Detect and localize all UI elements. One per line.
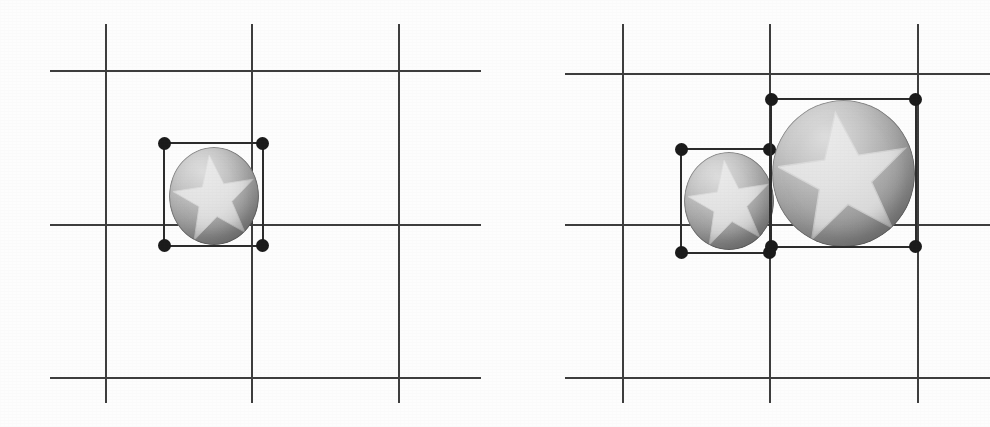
selection-bounding-box[interactable] — [770, 98, 917, 248]
resize-handle-bottom-left[interactable] — [765, 240, 778, 253]
selection-bounding-box[interactable] — [163, 142, 264, 247]
resize-handle-bottom-right[interactable] — [256, 239, 269, 252]
resize-handle-bottom-left[interactable] — [158, 239, 171, 252]
selection-right — [495, 0, 990, 427]
viewport-right[interactable] — [495, 0, 990, 427]
resize-handle-top-left[interactable] — [675, 143, 688, 156]
resize-handle-bottom-right[interactable] — [909, 240, 922, 253]
resize-handle-top-right[interactable] — [256, 137, 269, 150]
resize-handle-top-left[interactable] — [765, 93, 778, 106]
resize-handle-top-right[interactable] — [909, 93, 922, 106]
selection-bounding-box[interactable] — [680, 148, 771, 254]
resize-handle-bottom-left[interactable] — [675, 246, 688, 259]
resize-handle-top-left[interactable] — [158, 137, 171, 150]
viewport-left[interactable] — [0, 0, 495, 427]
scene-canvas — [0, 0, 990, 427]
selection-left — [0, 0, 495, 427]
